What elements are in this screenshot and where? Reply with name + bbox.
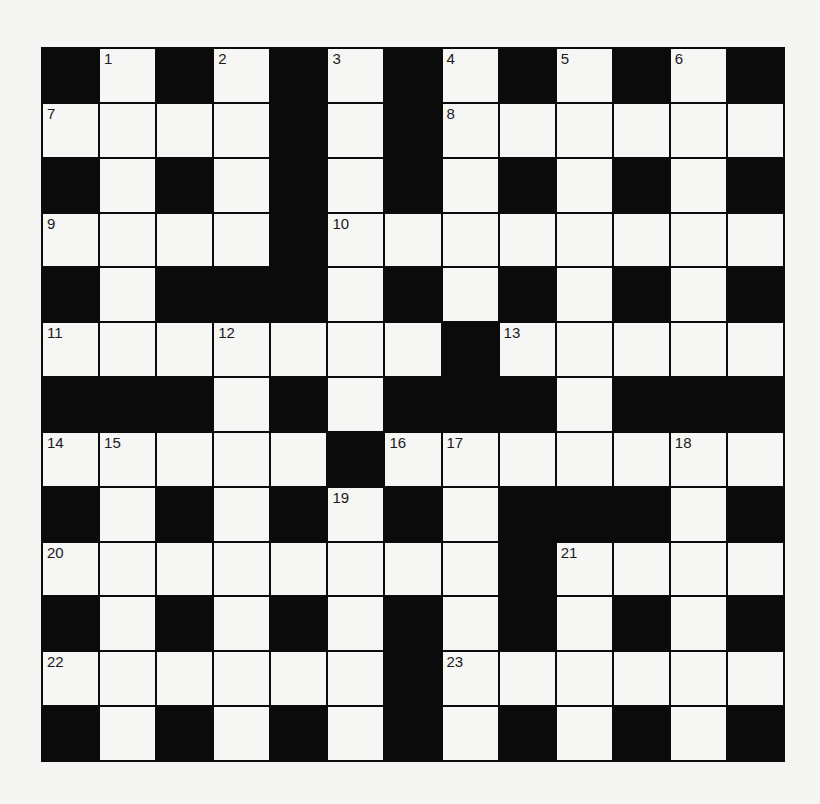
answer-cell[interactable]: [214, 652, 269, 705]
answer-cell[interactable]: [271, 323, 326, 376]
answer-cell[interactable]: [328, 652, 383, 705]
answer-cell[interactable]: 19: [328, 488, 383, 541]
answer-cell[interactable]: [443, 159, 498, 212]
answer-cell[interactable]: [728, 104, 783, 157]
answer-cell[interactable]: 13: [500, 323, 555, 376]
answer-cell[interactable]: 21: [557, 543, 612, 596]
answer-cell[interactable]: [214, 433, 269, 486]
answer-cell[interactable]: [671, 652, 726, 705]
answer-cell[interactable]: [557, 104, 612, 157]
answer-cell[interactable]: [157, 214, 212, 267]
answer-cell[interactable]: [214, 597, 269, 650]
answer-cell[interactable]: [271, 652, 326, 705]
answer-cell[interactable]: [100, 652, 155, 705]
answer-cell[interactable]: [100, 323, 155, 376]
answer-cell[interactable]: [614, 323, 669, 376]
answer-cell[interactable]: [614, 104, 669, 157]
answer-cell[interactable]: [100, 104, 155, 157]
answer-cell[interactable]: [271, 543, 326, 596]
answer-cell[interactable]: [157, 323, 212, 376]
answer-cell[interactable]: [500, 652, 555, 705]
answer-cell[interactable]: [671, 707, 726, 760]
answer-cell[interactable]: [100, 214, 155, 267]
answer-cell[interactable]: [214, 543, 269, 596]
answer-cell[interactable]: [614, 433, 669, 486]
answer-cell[interactable]: [557, 378, 612, 431]
answer-cell[interactable]: [443, 597, 498, 650]
answer-cell[interactable]: 23: [443, 652, 498, 705]
answer-cell[interactable]: [614, 652, 669, 705]
answer-cell[interactable]: [443, 543, 498, 596]
answer-cell[interactable]: [671, 214, 726, 267]
answer-cell[interactable]: [728, 543, 783, 596]
answer-cell[interactable]: [557, 433, 612, 486]
answer-cell[interactable]: 8: [443, 104, 498, 157]
answer-cell[interactable]: 6: [671, 49, 726, 102]
answer-cell[interactable]: 12: [214, 323, 269, 376]
answer-cell[interactable]: [500, 104, 555, 157]
answer-cell[interactable]: 17: [443, 433, 498, 486]
answer-cell[interactable]: [214, 104, 269, 157]
answer-cell[interactable]: [100, 707, 155, 760]
answer-cell[interactable]: [100, 488, 155, 541]
answer-cell[interactable]: 10: [328, 214, 383, 267]
answer-cell[interactable]: [500, 433, 555, 486]
answer-cell[interactable]: [443, 707, 498, 760]
answer-cell[interactable]: [614, 214, 669, 267]
answer-cell[interactable]: [671, 104, 726, 157]
answer-cell[interactable]: [157, 104, 212, 157]
answer-cell[interactable]: [443, 488, 498, 541]
answer-cell[interactable]: [671, 543, 726, 596]
answer-cell[interactable]: 4: [443, 49, 498, 102]
answer-cell[interactable]: [157, 543, 212, 596]
answer-cell[interactable]: [614, 543, 669, 596]
answer-cell[interactable]: [671, 488, 726, 541]
answer-cell[interactable]: 14: [43, 433, 98, 486]
answer-cell[interactable]: 7: [43, 104, 98, 157]
answer-cell[interactable]: [328, 597, 383, 650]
answer-cell[interactable]: 18: [671, 433, 726, 486]
answer-cell[interactable]: [443, 268, 498, 321]
answer-cell[interactable]: 11: [43, 323, 98, 376]
answer-cell[interactable]: [728, 652, 783, 705]
answer-cell[interactable]: [728, 323, 783, 376]
answer-cell[interactable]: [328, 323, 383, 376]
answer-cell[interactable]: [328, 543, 383, 596]
answer-cell[interactable]: [328, 378, 383, 431]
answer-cell[interactable]: [100, 597, 155, 650]
answer-cell[interactable]: 1: [100, 49, 155, 102]
answer-cell[interactable]: [557, 597, 612, 650]
answer-cell[interactable]: [557, 268, 612, 321]
answer-cell[interactable]: [385, 214, 440, 267]
answer-cell[interactable]: 5: [557, 49, 612, 102]
answer-cell[interactable]: [671, 159, 726, 212]
answer-cell[interactable]: [214, 159, 269, 212]
answer-cell[interactable]: [328, 159, 383, 212]
answer-cell[interactable]: 3: [328, 49, 383, 102]
answer-cell[interactable]: [557, 214, 612, 267]
answer-cell[interactable]: [671, 323, 726, 376]
answer-cell[interactable]: 22: [43, 652, 98, 705]
answer-cell[interactable]: [385, 543, 440, 596]
answer-cell[interactable]: [214, 488, 269, 541]
answer-cell[interactable]: 2: [214, 49, 269, 102]
answer-cell[interactable]: [214, 378, 269, 431]
answer-cell[interactable]: [500, 214, 555, 267]
answer-cell[interactable]: [557, 707, 612, 760]
answer-cell[interactable]: 16: [385, 433, 440, 486]
answer-cell[interactable]: [557, 652, 612, 705]
answer-cell[interactable]: [271, 433, 326, 486]
answer-cell[interactable]: [728, 433, 783, 486]
answer-cell[interactable]: 9: [43, 214, 98, 267]
answer-cell[interactable]: [328, 707, 383, 760]
answer-cell[interactable]: [671, 268, 726, 321]
answer-cell[interactable]: 15: [100, 433, 155, 486]
answer-cell[interactable]: [443, 214, 498, 267]
answer-cell[interactable]: 20: [43, 543, 98, 596]
answer-cell[interactable]: [100, 543, 155, 596]
answer-cell[interactable]: [557, 159, 612, 212]
answer-cell[interactable]: [157, 433, 212, 486]
answer-cell[interactable]: [100, 159, 155, 212]
answer-cell[interactable]: [100, 268, 155, 321]
answer-cell[interactable]: [671, 597, 726, 650]
